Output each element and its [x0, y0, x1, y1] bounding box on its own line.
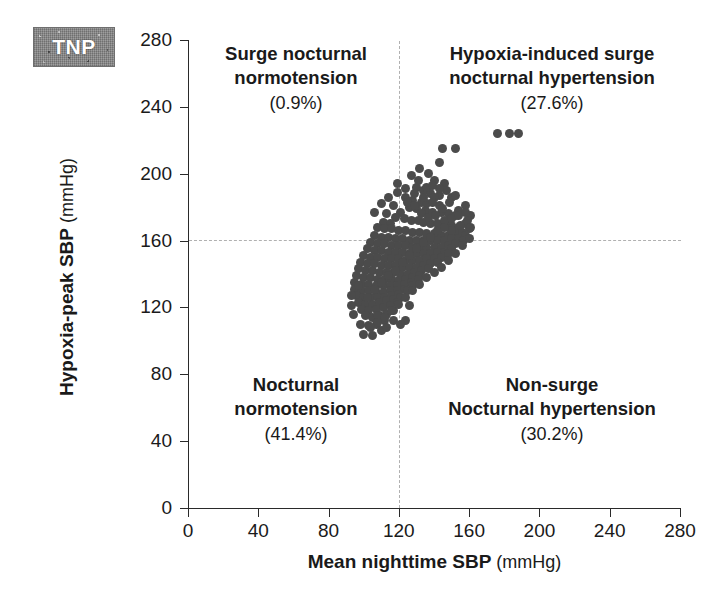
x-tick-label-0: 0: [158, 520, 218, 542]
data-point: [377, 278, 386, 287]
data-point: [438, 144, 447, 153]
x-tick-label-120: 120: [369, 520, 429, 542]
data-point: [382, 209, 391, 218]
data-point: [458, 241, 467, 250]
y-tick-label-0: 0: [112, 497, 172, 519]
data-point: [435, 158, 444, 167]
data-point: [394, 300, 403, 309]
data-point: [393, 179, 402, 188]
scatter-plot-figure: TNP 04080120160200240280 040801201602002…: [0, 0, 722, 600]
quadrant-label-nocturnal-normotension: Nocturnal normotension (41.4%): [196, 373, 396, 447]
quadrant-br-line1: Non-surge: [412, 373, 692, 397]
data-point: [426, 233, 435, 242]
data-point: [356, 320, 365, 329]
x-tick-40: [258, 509, 259, 517]
x-tick-240: [610, 509, 611, 517]
data-point: [428, 181, 437, 190]
y-tick-280: [180, 40, 188, 41]
y-tick-160: [180, 241, 188, 242]
data-point: [451, 144, 460, 153]
data-point: [466, 223, 475, 232]
quadrant-br-line2: Nocturnal hypertension: [412, 397, 692, 421]
data-point: [382, 323, 391, 332]
data-point: [505, 129, 514, 138]
data-point: [370, 285, 379, 294]
x-tick-280: [680, 509, 681, 517]
quadrant-tr-line2: nocturnal hypertension: [412, 66, 692, 90]
x-axis-unit: (mmHg): [496, 552, 561, 572]
x-tick-200: [539, 509, 540, 517]
quadrant-tl-line1: Surge nocturnal: [196, 42, 396, 66]
y-tick-0: [180, 508, 188, 509]
x-tick-label-200: 200: [509, 520, 569, 542]
y-tick-240: [180, 107, 188, 108]
data-point: [401, 184, 410, 193]
quadrant-bl-line2: normotension: [196, 397, 396, 421]
data-point: [407, 171, 416, 180]
quadrant-tl-line2: normotension: [196, 66, 396, 90]
x-axis-line: [188, 508, 681, 509]
data-point: [396, 320, 405, 329]
y-tick-label-280: 280: [112, 29, 172, 51]
x-tick-label-280: 280: [650, 520, 710, 542]
x-tick-160: [469, 509, 470, 517]
data-point: [440, 223, 449, 232]
y-tick-80: [180, 374, 188, 375]
data-point: [389, 201, 398, 210]
x-tick-label-160: 160: [439, 520, 499, 542]
quadrant-label-non-surge-nocturnal-hypertension: Non-surge Nocturnal hypertension (30.2%): [412, 373, 692, 447]
quadrant-bl-line1: Nocturnal: [196, 373, 396, 397]
data-point: [451, 191, 460, 200]
data-point: [393, 188, 402, 197]
quadrant-tr-percent: (27.6%): [412, 92, 692, 116]
y-axis-title: Hypoxia-peak SBP (mmHg): [56, 42, 78, 512]
data-point: [422, 273, 431, 282]
y-axis-title-text: Hypoxia-peak SBP: [56, 228, 77, 396]
y-tick-label-120: 120: [112, 296, 172, 318]
x-tick-label-80: 80: [299, 520, 359, 542]
data-point: [419, 193, 428, 202]
data-point: [368, 331, 377, 340]
data-point: [514, 129, 523, 138]
y-tick-120: [180, 307, 188, 308]
data-point: [347, 301, 356, 310]
y-tick-40: [180, 441, 188, 442]
data-point: [415, 164, 424, 173]
y-axis-unit: (mmHg): [57, 158, 77, 223]
data-point: [377, 199, 386, 208]
data-point: [461, 208, 470, 217]
data-point: [410, 189, 419, 198]
x-tick-80: [329, 509, 330, 517]
y-tick-label-80: 80: [112, 363, 172, 385]
quadrant-tr-line1: Hypoxia-induced surge: [412, 42, 692, 66]
data-point: [349, 310, 358, 319]
quadrant-br-percent: (30.2%): [412, 423, 692, 447]
data-point: [408, 286, 417, 295]
y-tick-label-240: 240: [112, 96, 172, 118]
y-tick-label-200: 200: [112, 163, 172, 185]
data-point: [391, 266, 400, 275]
x-tick-0: [188, 509, 189, 517]
x-tick-label-240: 240: [580, 520, 640, 542]
x-tick-label-40: 40: [228, 520, 288, 542]
quadrant-bl-percent: (41.4%): [196, 423, 396, 447]
data-point: [493, 129, 502, 138]
data-point: [363, 293, 372, 302]
data-point: [405, 301, 414, 310]
x-axis-title-text: Mean nighttime SBP: [308, 551, 491, 572]
y-tick-label-160: 160: [112, 230, 172, 252]
data-point: [398, 258, 407, 267]
quadrant-tl-percent: (0.9%): [196, 92, 396, 116]
y-tick-200: [180, 174, 188, 175]
data-point: [428, 198, 437, 207]
data-point: [370, 208, 379, 217]
x-tick-120: [399, 509, 400, 517]
x-axis-title: Mean nighttime SBP (mmHg): [188, 551, 681, 573]
quadrant-label-surge-nocturnal-normotension: Surge nocturnal normotension (0.9%): [196, 42, 396, 116]
quadrant-label-hypoxia-induced-surge-nocturnal-hypertension: Hypoxia-induced surge nocturnal hyperten…: [412, 42, 692, 116]
data-point: [405, 251, 414, 260]
y-tick-label-40: 40: [112, 430, 172, 452]
data-point: [415, 280, 424, 289]
